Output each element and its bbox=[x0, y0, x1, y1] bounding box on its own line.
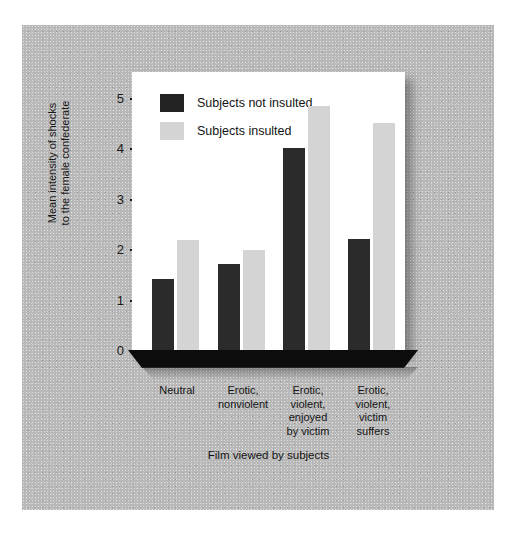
bars-layer bbox=[132, 72, 405, 353]
x-category-label-erotic-violent-suffers: Erotic, violent, victim suffers bbox=[336, 384, 410, 438]
plot-panel: Subjects not insulted Subjects insulted bbox=[132, 72, 405, 353]
y-tick-label-5: 5 bbox=[110, 91, 124, 106]
y-tick-label-3: 3 bbox=[110, 192, 124, 207]
figure-container: 5 4 3 2 1 0 Mean intensity of shocks to … bbox=[0, 0, 517, 535]
axis-base-shadow bbox=[136, 367, 424, 380]
axis-base-slab bbox=[128, 350, 418, 368]
x-axis-title: Film viewed by subjects bbox=[132, 449, 405, 461]
y-tick-label-1: 1 bbox=[110, 293, 124, 308]
bar-erotic-violent-enjoyed-insulted bbox=[308, 106, 330, 350]
x-category-label-erotic-nonviolent: Erotic, nonviolent bbox=[206, 384, 280, 411]
bar-erotic-violent-suffers-not-insulted bbox=[348, 239, 370, 350]
bar-erotic-violent-enjoyed-not-insulted bbox=[283, 148, 305, 350]
y-axis-title: Mean intensity of shocks to the female c… bbox=[46, 88, 72, 238]
bar-erotic-violent-suffers-insulted bbox=[373, 123, 395, 350]
bar-neutral-insulted bbox=[177, 240, 199, 350]
x-category-label-neutral: Neutral bbox=[140, 384, 214, 398]
y-tick-label-0: 0 bbox=[110, 343, 124, 358]
x-category-label-erotic-violent-enjoyed: Erotic, violent, enjoyed by victim bbox=[271, 384, 345, 438]
bar-erotic-nonviolent-insulted bbox=[243, 250, 265, 350]
bar-neutral-not-insulted bbox=[152, 279, 174, 350]
bar-erotic-nonviolent-not-insulted bbox=[218, 264, 240, 350]
y-tick-label-2: 2 bbox=[110, 242, 124, 257]
y-tick-label-4: 4 bbox=[110, 141, 124, 156]
